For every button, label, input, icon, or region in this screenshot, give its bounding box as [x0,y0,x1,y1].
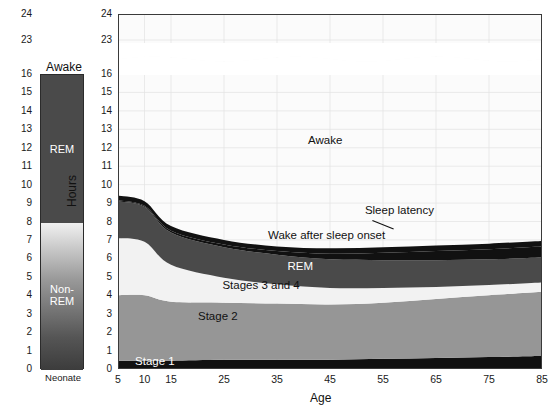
y-tick-16: 16 [84,69,112,79]
x-axis-title: Age [310,391,331,405]
main-plot-area: Awake Sleep latency Wake after sleep ons… [118,14,542,369]
y-tick-11: 11 [84,161,112,171]
y-tick-24: 24 [84,9,112,19]
y-tick-6: 6 [84,253,112,263]
neonate-y-tick-8: 8 [8,217,32,227]
neonate-y-tick-23: 23 [8,35,32,45]
neonate-y-tick-12: 12 [8,143,32,153]
neonate-y-tick-3: 3 [8,309,32,319]
neonate-y-tick-16: 16 [8,69,32,79]
neonate-y-tick-10: 10 [8,180,32,190]
neonate-y-tick-13: 13 [8,124,32,134]
y-tick-9: 9 [84,198,112,208]
y-tick-2: 2 [84,327,112,337]
x-tick-45: 45 [310,374,350,385]
y-tick-0: 0 [84,364,112,374]
x-tick-15: 15 [151,374,191,385]
neonate-segment-label-non-rem: Non- REM [41,283,83,307]
y-tick-10: 10 [84,180,112,190]
y-tick-4: 4 [84,290,112,300]
x-tick-25: 25 [204,374,244,385]
neonate-segment-non-rem: Non- REM [41,223,83,371]
sleep-architecture-chart: 2423161514131211109876543210 Awake REMNo… [0,0,557,417]
x-tick-75: 75 [469,374,509,385]
neonate-y-tick-9: 9 [8,198,32,208]
x-tick-55: 55 [363,374,403,385]
neonate-panel: 2423161514131211109876543210 Awake REMNo… [0,0,96,417]
y-tick-23: 23 [84,35,112,45]
neonate-y-tick-14: 14 [8,106,32,116]
y-tick-12: 12 [84,143,112,153]
y-tick-14: 14 [84,106,112,116]
neonate-y-tick-6: 6 [8,253,32,263]
y-tick-3: 3 [84,309,112,319]
neonate-y-tick-15: 15 [8,87,32,97]
neonate-y-tick-2: 2 [8,327,32,337]
x-tick-85: 85 [522,374,557,385]
y-tick-13: 13 [84,124,112,134]
stacked-area-svg [119,15,542,369]
y-tick-8: 8 [84,217,112,227]
neonate-y-tick-0: 0 [8,364,32,374]
y-axis-title: Hours [65,174,79,206]
neonate-y-tick-11: 11 [8,161,32,171]
neonate-bar: REMNon- REM [40,74,84,369]
y-tick-7: 7 [84,235,112,245]
neonate-segment-label-rem: REM [41,143,83,155]
y-tick-1: 1 [84,346,112,356]
y-tick-15: 15 [84,87,112,97]
x-tick-35: 35 [257,374,297,385]
neonate-y-tick-4: 4 [8,290,32,300]
neonate-y-tick-24: 24 [8,9,32,19]
x-tick-65: 65 [416,374,456,385]
neonate-y-tick-5: 5 [8,272,32,282]
neonate-y-tick-1: 1 [8,346,32,356]
y-tick-5: 5 [84,272,112,282]
neonate-y-tick-7: 7 [8,235,32,245]
